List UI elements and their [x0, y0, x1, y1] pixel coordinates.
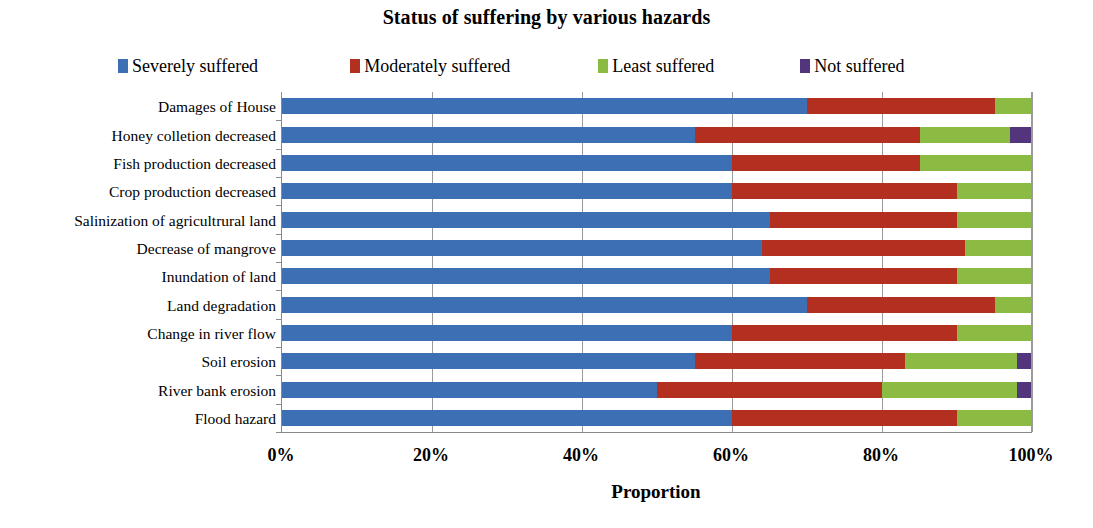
category-axis-labels: Damages of HouseHoney colletion decrease…: [40, 92, 276, 432]
category-label: Inundation of land: [161, 269, 276, 285]
bar-segment[interactable]: [957, 183, 1032, 199]
x-axis-title: Proportion: [281, 481, 1031, 503]
bar-segment[interactable]: [770, 268, 958, 284]
legend-item-not-suffered: Not suffered: [800, 56, 904, 77]
category-label: Soil erosion: [202, 354, 277, 370]
category-label: River bank erosion: [158, 383, 276, 399]
bar-segment[interactable]: [1010, 127, 1033, 143]
y-axis-tick: [276, 375, 282, 376]
bar-segment[interactable]: [695, 127, 920, 143]
bar-row[interactable]: [282, 268, 1032, 284]
bar-row[interactable]: [282, 297, 1032, 313]
bar-row[interactable]: [282, 212, 1032, 228]
bar-row[interactable]: [282, 127, 1032, 143]
legend-label-severely-suffered: Severely suffered: [132, 56, 258, 77]
bar-segment[interactable]: [957, 410, 1032, 426]
y-axis-tick: [276, 290, 282, 291]
legend-swatch-moderately-suffered: [350, 59, 360, 73]
legend-item-least-suffered: Least suffered: [598, 56, 714, 77]
category-label: Change in river flow: [147, 326, 276, 342]
legend-item-moderately-suffered: Moderately suffered: [350, 56, 510, 77]
bar-segment[interactable]: [282, 410, 732, 426]
bar-segment[interactable]: [732, 183, 957, 199]
legend-item-severely-suffered: Severely suffered: [118, 56, 258, 77]
bar-segment[interactable]: [282, 353, 695, 369]
bar-segment[interactable]: [732, 325, 957, 341]
category-label: Fish production decreased: [113, 156, 276, 172]
x-axis-tick-labels: 0%20%40%60%80%100%: [281, 445, 1031, 469]
bar-segment[interactable]: [920, 155, 1033, 171]
bar-segment[interactable]: [695, 353, 905, 369]
legend-swatch-not-suffered: [800, 59, 810, 73]
y-axis-tick: [276, 149, 282, 150]
y-axis-tick: [276, 177, 282, 178]
bar-segment[interactable]: [282, 212, 770, 228]
plot-area: [281, 92, 1032, 433]
bar-segment[interactable]: [657, 382, 882, 398]
bar-segment[interactable]: [1017, 382, 1032, 398]
bar-segment[interactable]: [732, 410, 957, 426]
category-label: Land degradation: [167, 298, 276, 314]
bar-segment[interactable]: [762, 240, 965, 256]
y-axis-tick: [276, 319, 282, 320]
bar-row[interactable]: [282, 353, 1032, 369]
bar-segment[interactable]: [957, 268, 1032, 284]
bar-segment[interactable]: [732, 155, 920, 171]
category-label: Honey colletion decreased: [112, 128, 276, 144]
bar-row[interactable]: [282, 183, 1032, 199]
bar-segment[interactable]: [282, 183, 732, 199]
bar-segment[interactable]: [995, 98, 1033, 114]
y-axis-tick: [276, 404, 282, 405]
bar-segment[interactable]: [282, 325, 732, 341]
chart-legend: Severely suffered Moderately suffered Le…: [118, 53, 968, 79]
legend-label-least-suffered: Least suffered: [612, 56, 714, 77]
y-axis-tick: [276, 347, 282, 348]
gridline: [1032, 92, 1033, 432]
bar-segment[interactable]: [282, 297, 807, 313]
bar-segment[interactable]: [807, 297, 995, 313]
category-label: Crop production decreased: [109, 184, 276, 200]
bar-segment[interactable]: [282, 240, 762, 256]
x-tick-label: 100%: [1009, 445, 1054, 466]
y-axis-tick: [276, 262, 282, 263]
bar-segment[interactable]: [957, 325, 1032, 341]
bar-segment[interactable]: [995, 297, 1033, 313]
y-axis-tick: [276, 234, 282, 235]
chart-container: Status of suffering by various hazards S…: [0, 0, 1093, 528]
bar-segment[interactable]: [807, 98, 995, 114]
category-label: Salinization of agricultrural land: [74, 213, 276, 229]
y-axis-tick: [276, 120, 282, 121]
bar-segment[interactable]: [282, 98, 807, 114]
plot-right-border: [1031, 92, 1032, 432]
bar-row[interactable]: [282, 325, 1032, 341]
bar-segment[interactable]: [1017, 353, 1032, 369]
x-tick-label: 0%: [268, 445, 295, 466]
category-label: Decrease of mangrove: [137, 241, 276, 257]
bar-row[interactable]: [282, 410, 1032, 426]
x-tick-label: 20%: [413, 445, 449, 466]
bar-segment[interactable]: [905, 353, 1018, 369]
bar-segment[interactable]: [920, 127, 1010, 143]
bar-segment[interactable]: [282, 268, 770, 284]
bar-segment[interactable]: [282, 155, 732, 171]
x-tick-label: 80%: [863, 445, 899, 466]
bar-segment[interactable]: [957, 212, 1032, 228]
category-label: Flood hazard: [195, 411, 276, 427]
bar-row[interactable]: [282, 155, 1032, 171]
bar-segment[interactable]: [282, 382, 657, 398]
bar-segment[interactable]: [965, 240, 1033, 256]
legend-swatch-least-suffered: [598, 59, 608, 73]
x-tick-label: 40%: [563, 445, 599, 466]
bar-segment[interactable]: [882, 382, 1017, 398]
bar-segment[interactable]: [282, 127, 695, 143]
bar-segment[interactable]: [770, 212, 958, 228]
y-axis-tick: [276, 205, 282, 206]
category-label: Damages of House: [158, 99, 276, 115]
bar-row[interactable]: [282, 382, 1032, 398]
x-tick-label: 60%: [713, 445, 749, 466]
legend-label-moderately-suffered: Moderately suffered: [364, 56, 510, 77]
legend-label-not-suffered: Not suffered: [814, 56, 904, 77]
bar-row[interactable]: [282, 98, 1032, 114]
bar-row[interactable]: [282, 240, 1032, 256]
legend-swatch-severely-suffered: [118, 59, 128, 73]
